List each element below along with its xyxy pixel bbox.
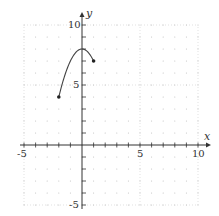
y-tick-label-neg5: -5 bbox=[69, 199, 79, 210]
grid bbox=[23, 24, 198, 205]
y-tick-label-5: 5 bbox=[73, 79, 79, 90]
tick-marks bbox=[24, 25, 198, 205]
x-tick-label-10: 10 bbox=[192, 148, 205, 159]
x-axis-label: x bbox=[204, 130, 211, 143]
x-tick-label-neg5: -5 bbox=[17, 148, 27, 159]
function-graph: x y -5 5 10 10 5 -5 bbox=[0, 0, 219, 216]
endpoint-marker bbox=[92, 59, 96, 63]
y-tick-label-10: 10 bbox=[68, 19, 81, 30]
y-axis-label: y bbox=[85, 7, 93, 20]
axes bbox=[20, 12, 211, 209]
x-tick-label-5: 5 bbox=[137, 148, 143, 159]
endpoint-marker bbox=[57, 95, 61, 99]
